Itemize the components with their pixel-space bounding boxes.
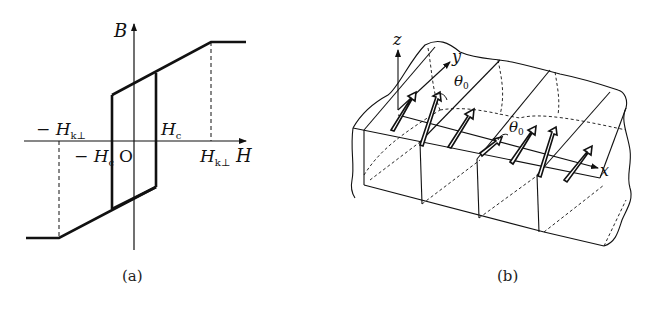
hysteresis-curve-lower: [26, 187, 156, 238]
arrow-m2: [420, 92, 441, 146]
z-axis-label: z: [392, 30, 402, 49]
domain-slab-diagram: z y x θ0 θ0 (b): [351, 30, 631, 285]
arrow-m3: [448, 109, 474, 148]
bottom-right-edge: [544, 232, 604, 246]
hysteresis-curve-upper: [112, 42, 246, 95]
y-axis-label: y: [451, 47, 462, 66]
y-axis: [398, 62, 450, 110]
front-bottom-edge: [364, 185, 544, 232]
dashed-wall-curves: [364, 48, 626, 246]
slab-wavy-left-edge: [351, 128, 355, 198]
caption-b: (b): [497, 267, 518, 285]
x-axis-label: x: [600, 161, 609, 180]
hk-label: Hk⊥: [199, 146, 230, 168]
neg-hc-label: − Hc: [74, 146, 114, 168]
origin-label: O: [119, 146, 133, 166]
b-axis-label: B: [113, 20, 127, 41]
theta0-label-1: θ0: [454, 72, 469, 91]
theta0-label-2: θ0: [509, 118, 524, 137]
arrow-m6: [538, 127, 557, 177]
h-axis-label: H: [235, 145, 252, 166]
front-divider-3: [537, 175, 539, 232]
arrow-m1: [391, 92, 416, 131]
neg-hk-label: − Hk⊥: [36, 119, 86, 141]
slab-wavy-top-edge: [353, 41, 627, 128]
front-divider-2: [477, 159, 479, 218]
arrow-m7: [564, 146, 592, 182]
caption-a: (a): [122, 267, 143, 285]
hysteresis-diagram: B H O − Hk⊥ Hc − Hc Hk⊥ (a): [24, 20, 252, 285]
figure-canvas: B H O − Hk⊥ Hc − Hc Hk⊥ (a): [0, 0, 645, 309]
front-divider-1: [420, 142, 422, 204]
hc-label: Hc: [160, 119, 182, 141]
